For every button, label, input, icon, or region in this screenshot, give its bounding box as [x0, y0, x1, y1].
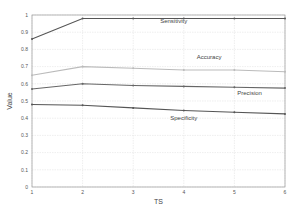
y-tick-label: 0.8 — [21, 46, 28, 52]
y-axis-label: Value — [6, 92, 13, 109]
series-line-sensitivity — [32, 18, 285, 39]
data-point — [284, 87, 286, 89]
x-tick-label: 5 — [233, 189, 236, 195]
x-axis-label: TS — [154, 198, 163, 205]
series-label-specificity: Specificity — [170, 115, 197, 121]
y-tick-label: 1 — [25, 12, 28, 18]
data-point — [233, 17, 235, 19]
data-point — [31, 103, 33, 105]
data-point — [132, 85, 134, 87]
data-point — [132, 107, 134, 109]
x-tick-label: 6 — [284, 189, 287, 195]
series-label-sensitivity: Sensitivity — [160, 18, 187, 24]
y-tick-label: 0.7 — [21, 63, 28, 69]
y-tick-label: 0.3 — [21, 132, 28, 138]
data-point — [233, 69, 235, 71]
series-label-accuracy: Accuracy — [197, 54, 222, 60]
y-tick-label: 0.1 — [21, 167, 28, 173]
line-chart: 00.10.20.30.40.50.60.70.80.91123456Sensi… — [0, 0, 302, 211]
data-point — [183, 69, 185, 71]
data-point — [132, 67, 134, 69]
data-point — [183, 85, 185, 87]
data-point — [82, 104, 84, 106]
data-point — [284, 113, 286, 115]
y-tick-label: 0 — [25, 184, 28, 190]
data-point — [82, 83, 84, 85]
data-point — [31, 38, 33, 40]
data-point — [31, 74, 33, 76]
y-tick-label: 0.4 — [21, 115, 28, 121]
data-point — [233, 86, 235, 88]
data-point — [284, 17, 286, 19]
series-label-precision: Precision — [237, 90, 262, 96]
y-tick-label: 0.5 — [21, 98, 28, 104]
y-tick-label: 0.9 — [21, 29, 28, 35]
series-line-accuracy — [32, 67, 285, 76]
data-point — [183, 109, 185, 111]
x-tick-label: 1 — [31, 189, 34, 195]
data-point — [31, 88, 33, 90]
series-line-precision — [32, 84, 285, 89]
y-tick-label: 0.6 — [21, 81, 28, 87]
x-tick-label: 4 — [182, 189, 185, 195]
data-point — [284, 71, 286, 73]
data-point — [233, 111, 235, 113]
data-point — [82, 66, 84, 68]
data-point — [132, 17, 134, 19]
data-point — [82, 17, 84, 19]
x-tick-label: 2 — [81, 189, 84, 195]
x-tick-label: 3 — [132, 189, 135, 195]
y-tick-label: 0.2 — [21, 149, 28, 155]
series-line-specificity — [32, 104, 285, 113]
